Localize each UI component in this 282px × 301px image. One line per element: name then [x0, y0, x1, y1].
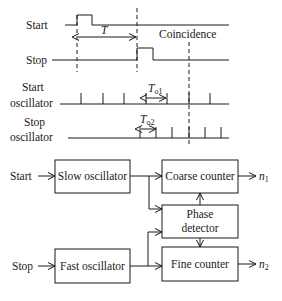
- fast-to-phase-arrow: [148, 232, 162, 266]
- stop-signal-label: Stop: [26, 54, 47, 67]
- phase-detector-label-line1: Phase: [187, 208, 214, 220]
- n1-output-label: n1: [259, 170, 269, 184]
- start-osc-label-line1: Start: [22, 81, 45, 93]
- coincidence-label: Coincidence: [159, 28, 216, 40]
- timing-diagram: Start T Coincidence Stop Start oscillato…: [10, 8, 229, 146]
- slow-oscillator-label: Slow oscillator: [58, 170, 127, 182]
- start-input-label: Start: [10, 170, 33, 182]
- start-osc-label-line2: oscillator: [10, 97, 53, 109]
- fast-oscillator-label: Fast oscillator: [60, 260, 125, 272]
- interval-t-label: T: [101, 24, 109, 36]
- stop-osc-label-line2: oscillator: [10, 131, 53, 143]
- stop-waveform: [52, 48, 229, 60]
- period-to2-label: To2: [140, 113, 154, 127]
- start-osc-pulses: [81, 93, 210, 104]
- vernier-tdc-diagram: Start T Coincidence Stop Start oscillato…: [0, 0, 282, 301]
- n2-output-label: n2: [259, 258, 269, 272]
- period-to1-label: To1: [148, 82, 162, 96]
- stop-input-label: Stop: [12, 260, 33, 273]
- block-diagram: Start Slow oscillator Coarse counter n1 …: [10, 160, 269, 283]
- start-waveform: [65, 15, 229, 25]
- slow-to-phase-arrow: [149, 176, 162, 209]
- start-signal-label: Start: [26, 19, 49, 31]
- coarse-counter-label: Coarse counter: [165, 170, 234, 182]
- stop-osc-label-line1: Stop: [24, 116, 45, 129]
- phase-detector-label-line2: detector: [181, 222, 218, 234]
- fine-counter-label: Fine counter: [171, 258, 229, 270]
